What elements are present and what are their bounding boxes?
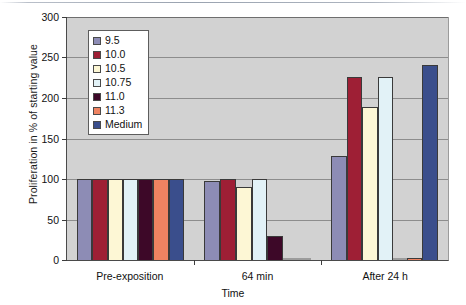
- legend-label-9.5: 9.5: [105, 35, 120, 46]
- bar-9.5-2: [204, 181, 220, 260]
- legend-label-11.3: 11.3: [105, 105, 125, 116]
- bar-group-inner: [204, 17, 311, 260]
- bar-11.0-2: [267, 236, 283, 260]
- bar-9.5-1: [77, 179, 92, 260]
- legend-item-9.5: 9.5: [93, 34, 142, 47]
- legend-swatch-10.75: [93, 79, 101, 87]
- bar-11.3-3: [407, 258, 423, 260]
- legend-swatch-medium: [93, 121, 101, 129]
- legend-label-10.0: 10.0: [105, 49, 125, 60]
- bar-10.75-2: [252, 179, 268, 260]
- legend-item-11.3: 11.3: [93, 104, 142, 117]
- legend-item-10.75: 10.75: [93, 76, 142, 89]
- legend-label-medium: Medium: [105, 119, 142, 130]
- y-tick-label-50: 50: [47, 214, 59, 226]
- bar-10.5-3: [362, 107, 378, 260]
- legend-swatch-10.5: [93, 65, 101, 73]
- bar-10.5-2: [236, 187, 252, 260]
- x-tick-label-1: Pre-exposition: [70, 270, 190, 282]
- y-tick-150: [62, 139, 67, 140]
- bar-10.75-1: [123, 179, 138, 260]
- bar-10.0-1: [92, 179, 107, 260]
- y-axis-title: Proliferation in % of starting value: [27, 0, 39, 249]
- y-tick-200: [62, 98, 67, 99]
- bar-group-after-24-h: [321, 17, 448, 260]
- y-tick-label-150: 150: [41, 133, 59, 145]
- bar-10.75-3: [378, 77, 394, 260]
- bar-medium-1: [169, 179, 184, 260]
- legend-item-10.5: 10.5: [93, 62, 142, 75]
- bar-9.5-3: [331, 156, 347, 260]
- bar-medium-2: [297, 258, 311, 260]
- bar-11.0-1: [138, 179, 153, 260]
- bar-group-64-min: [194, 17, 321, 260]
- x-axis-separator-2: [321, 260, 322, 265]
- x-axis-title: Time: [0, 287, 466, 299]
- y-tick-250: [62, 57, 67, 58]
- bar-group-inner: [331, 17, 438, 260]
- legend-swatch-11.3: [93, 107, 101, 115]
- y-tick-label-300: 300: [41, 11, 59, 23]
- bar-10.0-2: [220, 179, 236, 260]
- y-tick-label-0: 0: [53, 254, 59, 266]
- bar-medium-3: [422, 65, 438, 260]
- bar-11.0-3: [393, 258, 407, 260]
- y-tick-label-100: 100: [41, 173, 59, 185]
- x-axis-separator-1: [194, 260, 195, 265]
- bar-10.5-1: [108, 179, 123, 260]
- y-tick-label-200: 200: [41, 92, 59, 104]
- legend-label-10.5: 10.5: [105, 63, 125, 74]
- y-tick-50: [62, 220, 67, 221]
- chart-legend: 9.510.010.510.7511.011.3Medium: [88, 30, 149, 135]
- bar-11.3-1: [153, 179, 168, 260]
- legend-item-medium: Medium: [93, 118, 142, 131]
- y-tick-300: [62, 17, 67, 18]
- y-tick-0: [62, 260, 67, 261]
- legend-swatch-10.0: [93, 51, 101, 59]
- x-tick-label-2: 64 min: [198, 270, 318, 282]
- y-tick-label-250: 250: [41, 51, 59, 63]
- legend-item-11.0: 11.0: [93, 90, 142, 103]
- legend-label-11.0: 11.0: [105, 91, 125, 102]
- y-tick-100: [62, 179, 67, 180]
- bar-chart-figure: Proliferation in % of starting value 050…: [0, 0, 466, 305]
- bar-11.3-2: [283, 258, 297, 260]
- legend-swatch-9.5: [93, 37, 101, 45]
- legend-label-10.75: 10.75: [105, 77, 131, 88]
- bar-10.0-3: [347, 77, 363, 260]
- legend-item-10.0: 10.0: [93, 48, 142, 61]
- x-tick-label-3: After 24 h: [325, 270, 445, 282]
- legend-swatch-11.0: [93, 93, 101, 101]
